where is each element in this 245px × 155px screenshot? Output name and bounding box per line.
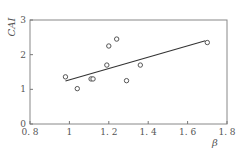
data-point-marker	[75, 86, 79, 90]
data-point-marker	[91, 77, 95, 81]
data-points	[63, 37, 209, 91]
y-axis-label: CAI	[6, 17, 17, 37]
x-tick-label: 1. 2	[100, 127, 117, 137]
data-point-marker	[138, 63, 142, 67]
data-point-marker	[107, 44, 111, 48]
x-axis-label: β	[211, 137, 218, 148]
y-axis-ticks: 0123	[20, 15, 33, 129]
x-tick-label: 1. 6	[179, 127, 196, 137]
scatter-chart: 0. 811. 21. 41. 61. 8 0123 CAI β	[0, 0, 245, 155]
fit-line	[65, 41, 205, 81]
plot-frame	[30, 20, 227, 124]
data-point-marker	[63, 75, 67, 79]
y-tick-label: 2	[20, 50, 26, 60]
y-tick-label: 1	[20, 84, 26, 94]
data-point-marker	[124, 78, 128, 82]
y-tick-label: 0	[20, 119, 26, 129]
x-tick-label: 1. 4	[140, 127, 157, 137]
y-tick-label: 3	[20, 15, 26, 25]
data-point-marker	[114, 37, 118, 41]
x-tick-label: 1. 8	[218, 127, 235, 137]
regression-line	[65, 41, 205, 81]
data-point-marker	[205, 40, 209, 44]
x-axis-ticks: 0. 811. 21. 41. 61. 8	[21, 121, 235, 137]
data-point-marker	[105, 63, 109, 67]
x-tick-label: 1	[67, 127, 73, 137]
